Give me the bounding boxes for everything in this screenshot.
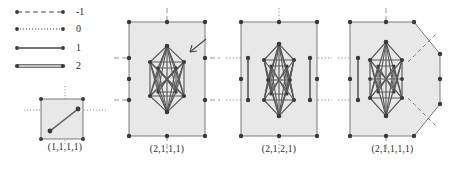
panel-4-caption: (2,1,1,1,1) [336, 144, 449, 154]
panel-3-caption: (2,1,2,1) [224, 144, 334, 154]
edge-multiplicity-legend: -1 0 1 2 [0, 0, 112, 78]
legend-label-minus1: -1 [76, 3, 84, 21]
legend-label-two: 2 [76, 57, 81, 75]
panel-2-caption: (2,1,1,1) [112, 144, 222, 154]
panel-4-graphic [336, 6, 449, 152]
panel-1: (1,1,1,1) [20, 84, 110, 150]
panel-4: (2,1,1,1,1) [336, 6, 449, 166]
polytope-square [41, 99, 83, 139]
panel-1-caption: (1,1,1,1) [20, 142, 110, 152]
panel-3-graphic [224, 6, 334, 152]
legend-label-zero: 0 [76, 20, 81, 38]
legend-samples [0, 0, 112, 78]
legend-swatch-minus1 [15, 10, 65, 14]
figure-root: -1 0 1 2 (1,1,1,1) [0, 0, 449, 174]
legend-swatch-two [15, 64, 65, 68]
panel-2: (2,1,1,1) [112, 6, 222, 166]
panel-3: (2,1,2,1) [224, 6, 334, 166]
panel-2-graphic [112, 6, 222, 152]
legend-swatch-one [15, 46, 65, 50]
legend-label-one: 1 [76, 39, 81, 57]
legend-swatch-zero [15, 27, 65, 31]
panel-1-graphic [20, 84, 110, 150]
